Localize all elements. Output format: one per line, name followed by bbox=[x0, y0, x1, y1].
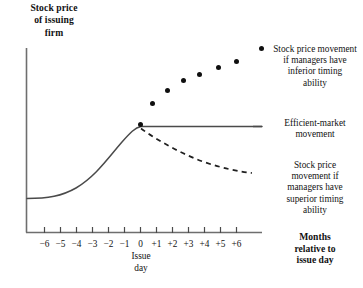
x-axis-tick-labels: −6−5−4−3−2−10+1+2+3+4+5+6 bbox=[0, 239, 363, 252]
axis-lines bbox=[26, 48, 262, 233]
annotation-superior-timing: Stock price movement if managers have su… bbox=[268, 160, 362, 216]
legend-markers bbox=[253, 46, 264, 127]
x-axis-origin-label: Issue day bbox=[112, 250, 170, 274]
x-tick-label: +6 bbox=[227, 239, 247, 249]
legend-dot-marker bbox=[259, 46, 264, 51]
superior-timing-dashed-curve bbox=[141, 129, 252, 174]
efficient-market-curve bbox=[27, 127, 262, 199]
data-point bbox=[216, 65, 221, 70]
annotation-efficient-market: Efficient-market movement bbox=[268, 118, 362, 140]
data-point bbox=[165, 88, 170, 93]
data-point bbox=[138, 122, 143, 127]
data-point bbox=[234, 59, 239, 64]
stock-price-timing-chart: Stock price of issuing firm Stock price … bbox=[0, 0, 363, 288]
data-point bbox=[150, 101, 155, 106]
data-point bbox=[197, 72, 202, 77]
annotation-inferior-timing: Stock price movement if managers have in… bbox=[268, 44, 362, 89]
inferior-timing-dot-series bbox=[138, 59, 239, 127]
y-axis-title: Stock price of issuing firm bbox=[2, 2, 106, 39]
data-point bbox=[181, 78, 186, 83]
